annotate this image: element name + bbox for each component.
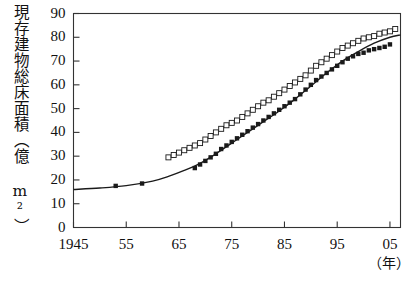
- data-point-filled: [251, 125, 255, 129]
- data-point-open: [314, 63, 319, 68]
- data-point-open: [377, 31, 382, 36]
- data-point-filled: [272, 111, 276, 115]
- data-point-filled: [193, 166, 197, 170]
- open-square-data-points: [166, 26, 398, 159]
- data-point-filled: [335, 64, 339, 68]
- data-point-filled: [319, 74, 323, 78]
- data-point-filled: [388, 42, 392, 46]
- data-point-filled: [113, 184, 117, 188]
- data-point-open: [250, 107, 255, 112]
- data-point-open: [271, 94, 276, 99]
- data-point-open: [245, 111, 250, 116]
- data-point-open: [224, 123, 229, 128]
- data-point-open: [171, 152, 176, 157]
- data-point-open: [187, 145, 192, 150]
- data-point-filled: [235, 136, 239, 140]
- data-point-filled: [224, 143, 228, 147]
- data-point-filled: [214, 152, 218, 156]
- data-point-filled: [356, 52, 360, 56]
- data-point-filled: [277, 108, 281, 112]
- data-point-open: [213, 130, 218, 135]
- data-point-filled: [203, 159, 207, 163]
- data-point-filled: [198, 162, 202, 166]
- data-point-open: [208, 133, 213, 138]
- data-point-open: [229, 120, 234, 125]
- data-point-filled: [219, 147, 223, 151]
- data-point-filled: [245, 129, 249, 133]
- data-point-filled: [330, 67, 334, 71]
- data-point-open: [308, 68, 313, 73]
- data-point-open: [324, 56, 329, 61]
- data-point-filled: [314, 78, 318, 82]
- data-point-open: [256, 104, 261, 109]
- data-point-open: [235, 118, 240, 123]
- data-point-filled: [340, 60, 344, 64]
- data-point-filled: [266, 115, 270, 119]
- data-point-open: [192, 143, 197, 148]
- y-tick-marks: [74, 14, 80, 204]
- data-point-open: [293, 80, 298, 85]
- data-point-open: [372, 34, 377, 39]
- chart-figure: 現存建物総床面積（億 m²） 0102030405060708090 19455…: [0, 0, 415, 281]
- data-point-open: [382, 30, 387, 35]
- data-point-filled: [377, 46, 381, 50]
- data-point-open: [240, 114, 245, 119]
- filled-square-data-points: [113, 42, 392, 188]
- data-point-open: [319, 60, 324, 65]
- data-point-filled: [208, 155, 212, 159]
- data-point-filled: [261, 118, 265, 122]
- data-point-open: [345, 43, 350, 48]
- data-point-filled: [367, 48, 371, 52]
- data-point-open: [203, 137, 208, 142]
- data-point-open: [329, 53, 334, 58]
- data-point-open: [277, 91, 282, 96]
- data-point-filled: [140, 181, 144, 185]
- data-point-open: [340, 45, 345, 50]
- data-point-filled: [309, 83, 313, 87]
- data-point-filled: [240, 133, 244, 137]
- data-point-filled: [288, 100, 292, 104]
- data-point-filled: [303, 87, 307, 91]
- data-point-open: [351, 41, 356, 46]
- x-tick-marks: [74, 222, 390, 228]
- data-point-filled: [256, 122, 260, 126]
- data-point-open: [198, 141, 203, 146]
- data-point-open: [282, 87, 287, 92]
- data-point-open: [266, 98, 271, 103]
- data-point-filled: [324, 71, 328, 75]
- data-point-open: [366, 35, 371, 40]
- data-point-open: [298, 76, 303, 81]
- data-point-open: [387, 29, 392, 34]
- plot-canvas: [0, 0, 415, 281]
- data-point-filled: [230, 140, 234, 144]
- data-point-filled: [351, 54, 355, 58]
- data-point-open: [182, 148, 187, 153]
- data-point-open: [287, 84, 292, 89]
- data-point-filled: [382, 45, 386, 49]
- data-point-open: [356, 38, 361, 43]
- data-point-filled: [282, 104, 286, 108]
- data-point-filled: [298, 92, 302, 96]
- data-point-filled: [293, 97, 297, 101]
- data-point-open: [176, 150, 181, 155]
- data-point-open: [219, 126, 224, 131]
- data-point-open: [335, 49, 340, 54]
- data-point-open: [166, 155, 171, 160]
- data-point-filled: [361, 51, 365, 55]
- data-point-filled: [372, 47, 376, 51]
- data-point-open: [361, 36, 366, 41]
- data-point-open: [261, 100, 266, 105]
- data-point-filled: [346, 56, 350, 60]
- data-point-open: [393, 26, 398, 31]
- data-point-open: [303, 73, 308, 78]
